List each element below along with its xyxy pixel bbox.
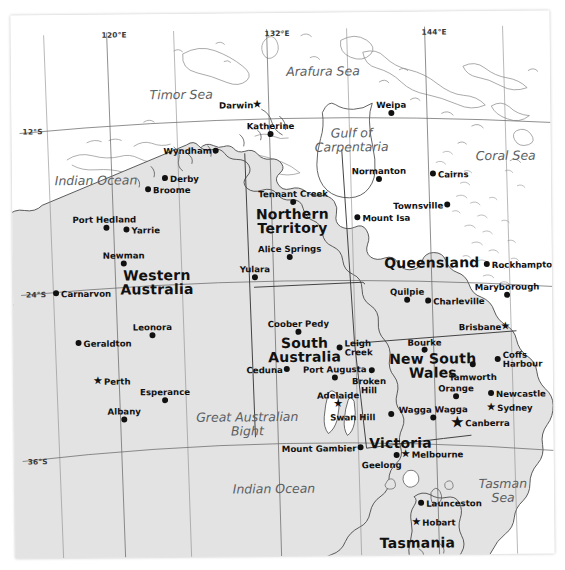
city-marker-perth[interactable]: ★ (93, 375, 103, 386)
city-marker-tamworth[interactable] (470, 361, 476, 367)
city-marker-broken-hill[interactable] (369, 367, 375, 373)
city-marker-tennant-creek[interactable] (290, 199, 296, 205)
city-marker-swan-hill[interactable] (388, 411, 394, 417)
city-marker-albany[interactable] (121, 416, 127, 422)
city-marker-newman[interactable] (121, 260, 127, 266)
map-graphic (10, 10, 554, 558)
city-marker-coffs-harbour[interactable] (495, 356, 501, 362)
city-marker-alice-springs[interactable] (287, 254, 293, 260)
city-marker-cairns[interactable] (430, 171, 436, 177)
city-marker-esperance[interactable] (162, 397, 168, 403)
city-marker-hobart[interactable]: ★ (411, 516, 421, 527)
gulf-of-carpentaria-water (316, 103, 375, 198)
city-marker-canberra[interactable]: ★ (450, 414, 464, 430)
city-marker-wyndham[interactable] (213, 148, 219, 154)
city-marker-carnarvon[interactable] (53, 290, 59, 296)
city-marker-townsville[interactable] (444, 201, 450, 207)
city-marker-coober-pedy[interactable] (295, 329, 301, 335)
city-marker-ceduna[interactable] (284, 366, 290, 372)
city-marker-charleville[interactable] (425, 298, 431, 304)
city-marker-weipa[interactable] (388, 110, 394, 116)
city-marker-melbourne[interactable]: ★ (401, 448, 411, 459)
city-marker-normanton[interactable] (376, 176, 382, 182)
city-marker-wagga-wagga[interactable] (430, 415, 436, 421)
map-screenshot: 120°E 132°E 144°E 12°S 24°S 36°S Timor S… (0, 0, 565, 570)
city-marker-yulara[interactable] (252, 274, 258, 280)
map-paper: 120°E 132°E 144°E 12°S 24°S 36°S Timor S… (10, 10, 554, 558)
city-marker-brisbane[interactable]: ★ (500, 320, 510, 331)
city-marker-mount-gambier[interactable] (358, 444, 364, 450)
city-marker-yarrie[interactable] (123, 226, 129, 232)
city-marker-bourke[interactable] (422, 347, 428, 353)
city-marker-orange[interactable] (453, 393, 459, 399)
city-marker-derby[interactable] (162, 175, 168, 181)
port-phillip-bay (403, 470, 419, 487)
city-marker-darwin[interactable]: ★ (252, 99, 262, 110)
city-marker-broome[interactable] (145, 186, 151, 192)
city-marker-geelong[interactable] (394, 452, 400, 458)
city-marker-geraldton[interactable] (76, 340, 82, 346)
city-marker-launceston[interactable] (418, 500, 424, 506)
city-marker-katherine[interactable] (268, 131, 274, 137)
city-marker-leigh-creek[interactable] (337, 344, 343, 350)
city-marker-mount-isa[interactable] (354, 214, 360, 220)
city-marker-quilpie[interactable] (404, 297, 410, 303)
city-marker-newcastle[interactable] (488, 390, 494, 396)
city-marker-port-augusta[interactable] (332, 374, 338, 380)
city-marker-adelaide[interactable]: ★ (333, 398, 343, 409)
city-marker-port-hedland[interactable] (103, 225, 109, 231)
city-marker-leonora[interactable] (149, 332, 155, 338)
city-marker-sydney[interactable]: ★ (486, 401, 496, 412)
city-marker-rockhampton[interactable] (484, 261, 490, 267)
city-marker-maryborough[interactable] (504, 292, 510, 298)
